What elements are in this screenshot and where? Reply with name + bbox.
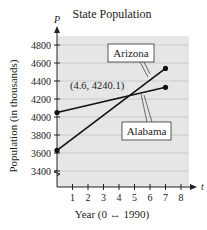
- y-tick-label: 4200: [31, 94, 51, 105]
- data-point: [54, 148, 59, 153]
- data-point: [54, 110, 59, 115]
- x-axis-var: t: [201, 181, 204, 192]
- y-tick-label: 4600: [31, 58, 51, 69]
- x-tick-label: 6: [148, 192, 153, 203]
- line-chart: State PopulationP34003600380040004200440…: [0, 0, 207, 230]
- y-tick-label: 4800: [31, 40, 51, 51]
- chart-figure: State PopulationP34003600380040004200440…: [0, 0, 207, 230]
- x-tick-label: 5: [132, 192, 137, 203]
- x-tick-label: 8: [179, 192, 184, 203]
- y-tick-label: 4400: [31, 76, 51, 87]
- x-axis-arrow-icon: [190, 184, 197, 190]
- y-axis-var: P: [53, 14, 60, 25]
- y-axis-arrow-icon: [54, 26, 60, 33]
- y-tick-label: 3800: [31, 130, 51, 141]
- x-tick-label: 7: [163, 192, 168, 203]
- y-tick-label: 3600: [31, 148, 51, 159]
- x-tick-label: 3: [101, 192, 106, 203]
- data-point: [163, 85, 168, 90]
- y-tick-label: 4000: [31, 112, 51, 123]
- legend-label-arizona: Arizona: [113, 47, 149, 59]
- x-tick-label: 2: [86, 192, 91, 203]
- y-tick-label: 3400: [31, 166, 51, 177]
- x-tick-label: 1: [70, 192, 75, 203]
- x-tick-label: 4: [117, 192, 122, 203]
- intersection-label: (4.6, 4240.1): [70, 80, 125, 92]
- legend-label-alabama: Alabama: [127, 125, 167, 137]
- y-axis-label: Population (in thousands): [7, 59, 20, 172]
- x-axis-label: Year (0 ↔ 1990): [75, 208, 150, 221]
- chart-title: State Population: [73, 7, 152, 21]
- data-point: [163, 66, 168, 71]
